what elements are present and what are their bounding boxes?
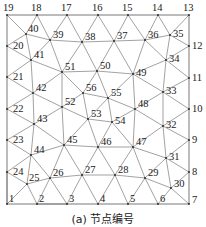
node-label: 35 [173, 28, 184, 39]
mesh-edge [64, 145, 82, 175]
node-label: 26 [53, 167, 64, 178]
mesh-node [162, 125, 164, 127]
mesh-node [6, 139, 8, 141]
node-label: 5 [130, 193, 135, 204]
mesh-node [36, 14, 38, 16]
mesh-edge [98, 147, 115, 175]
mesh-edge [31, 60, 62, 72]
mesh-node [26, 183, 28, 185]
mesh-edge [31, 60, 33, 93]
mesh-node [49, 39, 51, 41]
mesh-edge [7, 15, 26, 34]
mesh-edge [64, 145, 98, 147]
mesh-node [61, 71, 63, 73]
mesh-edge [50, 40, 82, 42]
node-label: 6 [160, 193, 165, 204]
node-label: 15 [122, 2, 133, 13]
mesh-edge [133, 74, 135, 109]
mesh-edge [82, 42, 97, 71]
mesh-edge [88, 119, 112, 122]
node-label: 40 [28, 23, 39, 34]
mesh-node [188, 108, 190, 110]
node-label: 50 [100, 60, 111, 71]
node-label: 1 [9, 193, 14, 204]
mesh-node [132, 146, 134, 148]
node-label: 9 [192, 134, 197, 145]
mesh-edge [50, 40, 62, 72]
node-label: 46 [101, 136, 112, 147]
mesh-edge [114, 41, 133, 74]
node-label: 7 [192, 194, 197, 205]
node-label: 23 [13, 134, 24, 145]
figure-caption: (a) 节点编号 [0, 210, 206, 226]
mesh-node [144, 39, 146, 41]
mesh-node [49, 177, 51, 179]
mesh-node [25, 33, 27, 35]
node-label: 12 [192, 40, 203, 51]
mesh-node [61, 106, 63, 108]
mesh-edge [62, 72, 83, 93]
finite-element-mesh: 1234567891011121314151617181920212223242… [0, 0, 206, 210]
node-label: 49 [136, 67, 147, 78]
mesh-node [157, 14, 159, 16]
mesh-node [30, 59, 32, 61]
mesh-node [32, 92, 34, 94]
mesh-edge [26, 34, 31, 60]
mesh-node [81, 174, 83, 176]
node-label: 10 [192, 103, 203, 114]
mesh-node [127, 14, 129, 16]
mesh-edge [171, 188, 189, 204]
node-label: 51 [65, 61, 76, 72]
node-label: 11 [192, 72, 202, 83]
mesh-edge [27, 184, 37, 204]
node-label: 31 [169, 151, 180, 162]
node-label: 34 [169, 53, 180, 64]
mesh-node [188, 45, 190, 47]
mesh-node [114, 174, 116, 176]
mesh-node [188, 139, 190, 141]
mesh-node [6, 45, 8, 47]
node-label: 19 [3, 2, 14, 13]
mesh-node [170, 187, 172, 189]
mesh-node [165, 157, 167, 159]
mesh-edge [145, 40, 166, 60]
mesh-node [6, 76, 8, 78]
mesh-edge [108, 98, 135, 109]
node-label: 21 [13, 71, 24, 82]
mesh-edge [133, 109, 135, 147]
node-label: 32 [166, 119, 177, 130]
mesh-node [63, 144, 65, 146]
node-label: 8 [192, 166, 197, 177]
mesh-edge [33, 93, 62, 107]
mesh-edge [62, 107, 88, 119]
node-label: 24 [13, 166, 24, 177]
mesh-node [66, 14, 68, 16]
mesh-node [66, 203, 68, 205]
node-label: 18 [31, 2, 42, 13]
node-label: 37 [117, 30, 128, 41]
node-label: 17 [61, 2, 72, 13]
node-label: 53 [91, 108, 102, 119]
node-label: 39 [53, 29, 64, 40]
mesh-node [6, 14, 8, 16]
node-label: 4 [100, 193, 106, 204]
node-label: 36 [148, 29, 159, 40]
node-label: 2 [39, 193, 44, 204]
node-label: 25 [29, 172, 40, 183]
mesh-node [127, 203, 129, 205]
mesh-edge [33, 93, 34, 124]
node-label: 16 [92, 2, 103, 13]
mesh-node [36, 203, 38, 205]
mesh-node [188, 203, 190, 205]
node-label: 38 [85, 31, 96, 42]
mesh-node [96, 70, 98, 72]
mesh-node [162, 91, 164, 93]
mesh-node [169, 34, 171, 36]
mesh-edge [26, 34, 50, 40]
mesh-node [111, 121, 113, 123]
node-label: 54 [115, 115, 126, 126]
node-label: 48 [138, 98, 149, 109]
node-label: 45 [67, 134, 78, 145]
mesh-edge [166, 158, 171, 188]
node-label: 20 [13, 40, 24, 51]
